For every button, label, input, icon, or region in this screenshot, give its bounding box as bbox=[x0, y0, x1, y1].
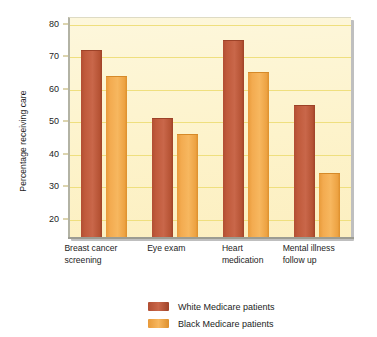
x-axis-label: Heartmedication bbox=[222, 243, 264, 266]
y-axis-title: Percentage receiving care bbox=[14, 48, 32, 234]
legend-item-label: Black Medicare patients bbox=[178, 319, 274, 329]
x-axis-label: Eye exam bbox=[147, 243, 185, 255]
legend-item-label: White Medicare patients bbox=[178, 302, 275, 312]
x-axis-baseline bbox=[68, 237, 354, 239]
legend-color-swatch bbox=[148, 319, 169, 328]
plot-area bbox=[68, 17, 351, 238]
x-axis-label: Mental illnessfollow up bbox=[283, 243, 335, 266]
y-axis-title-text: Percentage receiving care bbox=[18, 90, 28, 191]
bar bbox=[248, 72, 269, 238]
chart-legend: White Medicare patientsBlack Medicare pa… bbox=[148, 299, 368, 333]
bar bbox=[81, 50, 102, 239]
y-axis-tick-label: 50 bbox=[33, 117, 59, 126]
bar bbox=[223, 40, 244, 238]
plot-inner bbox=[70, 18, 351, 238]
x-axis-label: Breast cancerscreening bbox=[64, 243, 117, 266]
x-axis-label-line: Breast cancer bbox=[64, 243, 117, 253]
bar bbox=[106, 76, 127, 239]
bar bbox=[319, 173, 340, 238]
y-axis-tick-label: 70 bbox=[33, 52, 59, 61]
legend-item: White Medicare patients bbox=[148, 299, 368, 314]
legend-item: Black Medicare patients bbox=[148, 316, 368, 331]
gridline bbox=[70, 57, 351, 58]
x-axis-labels: Breast cancerscreeningEye examHeartmedic… bbox=[68, 243, 358, 285]
y-axis-tick-label: 40 bbox=[33, 149, 59, 158]
x-axis-label-line: Eye exam bbox=[147, 243, 185, 253]
y-axis-tick-label: 60 bbox=[33, 84, 59, 93]
x-axis-label-line: screening bbox=[64, 255, 117, 267]
gridline bbox=[70, 25, 351, 26]
bar bbox=[294, 105, 315, 238]
legend-color-swatch bbox=[148, 302, 169, 311]
bar bbox=[152, 118, 173, 238]
x-axis-label-line: follow up bbox=[283, 255, 335, 267]
y-axis-tick-label: 80 bbox=[33, 19, 59, 28]
bar bbox=[177, 134, 198, 238]
x-axis-label-line: Mental illness bbox=[283, 243, 335, 253]
y-axis-tick-labels: 20304050607080 bbox=[33, 0, 59, 337]
x-axis-label-line: Heart bbox=[222, 243, 243, 253]
x-axis-label-line: medication bbox=[222, 255, 264, 267]
bar-chart-figure: Percentage receiving care 20304050607080… bbox=[0, 0, 377, 337]
y-axis-tick-label: 30 bbox=[33, 182, 59, 191]
y-axis-tick-label: 20 bbox=[33, 214, 59, 223]
